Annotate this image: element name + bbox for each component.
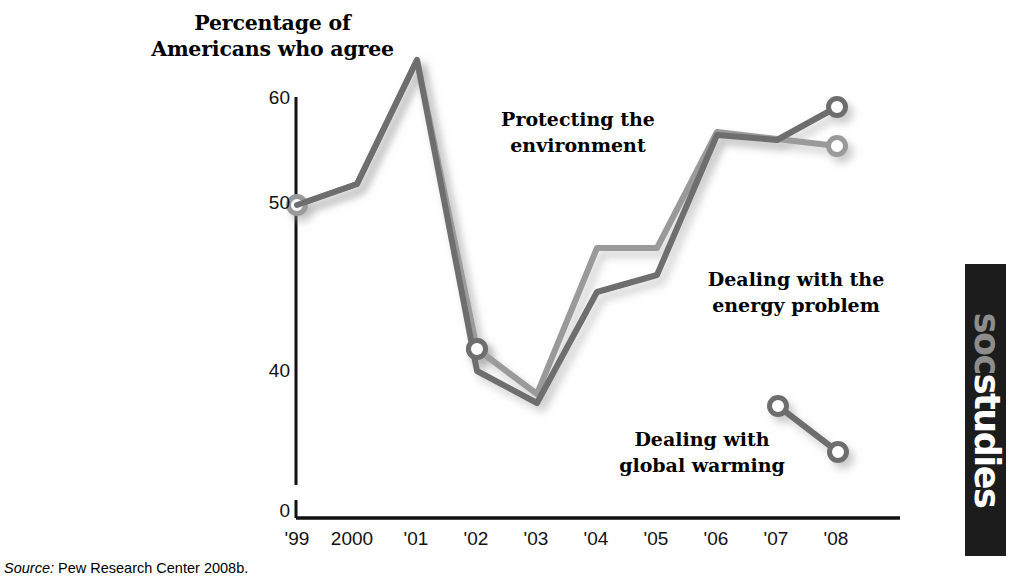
x-tick-08: '08: [806, 528, 866, 550]
energy-marker-02: [469, 341, 486, 358]
y-tick-0: 0: [248, 500, 290, 522]
energy-marker-08: [829, 99, 846, 116]
x-tick-99: '99: [267, 528, 327, 550]
warming-marker-08: [830, 444, 847, 461]
source-value: Pew Research Center 2008b.: [54, 560, 248, 576]
y-tick-60: 60: [248, 87, 290, 109]
x-tick-05: '05: [626, 528, 686, 550]
y-tick-50: 50: [248, 192, 290, 214]
x-tick-04: '04: [566, 528, 626, 550]
x-tick-07: '07: [746, 528, 806, 550]
source-label: Source:: [4, 560, 54, 576]
environment-marker-08: [829, 138, 846, 155]
annotation-global-warming: Dealing with global warming: [573, 426, 831, 478]
annotation-energy-problem: Dealing with the energy problem: [672, 266, 920, 318]
x-tick-03: '03: [506, 528, 566, 550]
source-note: Source: Pew Research Center 2008b.: [4, 560, 248, 576]
x-tick-01: '01: [386, 528, 446, 550]
section-tab-studies: studies: [966, 374, 1006, 508]
warming-marker-07: [770, 398, 787, 415]
section-tab-text: socstudies: [968, 313, 1003, 508]
x-tick-2000: 2000: [322, 528, 382, 550]
section-tab-soc: soc: [966, 313, 1006, 374]
section-tab: socstudies: [965, 264, 1006, 556]
y-tick-40: 40: [248, 360, 290, 382]
x-tick-06: '06: [686, 528, 746, 550]
chart-figure: Percentage of Americans who agree: [0, 0, 1012, 586]
annotation-protecting-environment: Protecting the environment: [463, 106, 693, 158]
x-tick-02: '02: [446, 528, 506, 550]
